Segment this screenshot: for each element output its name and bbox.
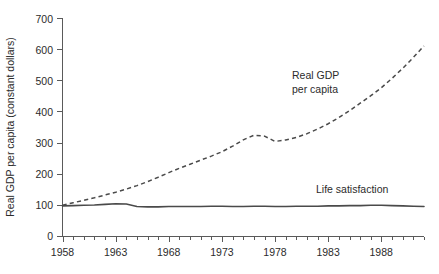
annotation-gdp-line1: Real GDP	[292, 69, 339, 81]
y-axis-ticks	[57, 19, 63, 237]
y-tick-label-700: 700	[35, 13, 53, 25]
y-tick-label-600: 600	[35, 44, 53, 56]
chart-plot-area: Real GDP per capita (constant dollars) 7…	[0, 0, 439, 274]
y-tick-label-200: 200	[35, 168, 53, 180]
y-tick-label-400: 400	[35, 106, 53, 118]
x-axis-tick-labels: 1958 1963 1968 1973 1978 1983 1988	[51, 246, 393, 258]
annotation-gdp-line2: per capita	[292, 83, 338, 95]
y-axis-title: Real GDP per capita (constant dollars)	[4, 37, 16, 217]
y-tick-label-500: 500	[35, 75, 53, 87]
chart-figure: Real GDP per capita (constant dollars) 7…	[0, 0, 439, 274]
series-line-life-satisfaction	[63, 204, 425, 207]
annotation-real-gdp-per-capita: Real GDP per capita	[292, 69, 339, 95]
x-tick-label-1973: 1973	[210, 246, 234, 258]
y-tick-label-100: 100	[35, 199, 53, 211]
y-tick-label-300: 300	[35, 137, 53, 149]
x-tick-label-1963: 1963	[104, 246, 128, 258]
y-tick-label-0: 0	[47, 230, 53, 242]
y-axis-tick-labels: 700 600 500 400 300 200 100 0	[35, 13, 53, 243]
x-tick-label-1978: 1978	[263, 246, 287, 258]
annotation-life-satisfaction: Life satisfaction	[316, 183, 389, 195]
x-tick-label-1958: 1958	[51, 246, 75, 258]
x-axis-ticks	[64, 237, 425, 243]
series-line-real-gdp-per-capita	[63, 46, 425, 205]
x-tick-label-1983: 1983	[316, 246, 340, 258]
annotation-life-line1: Life satisfaction	[316, 183, 389, 195]
x-tick-label-1988: 1988	[370, 246, 394, 258]
x-tick-label-1968: 1968	[157, 246, 181, 258]
